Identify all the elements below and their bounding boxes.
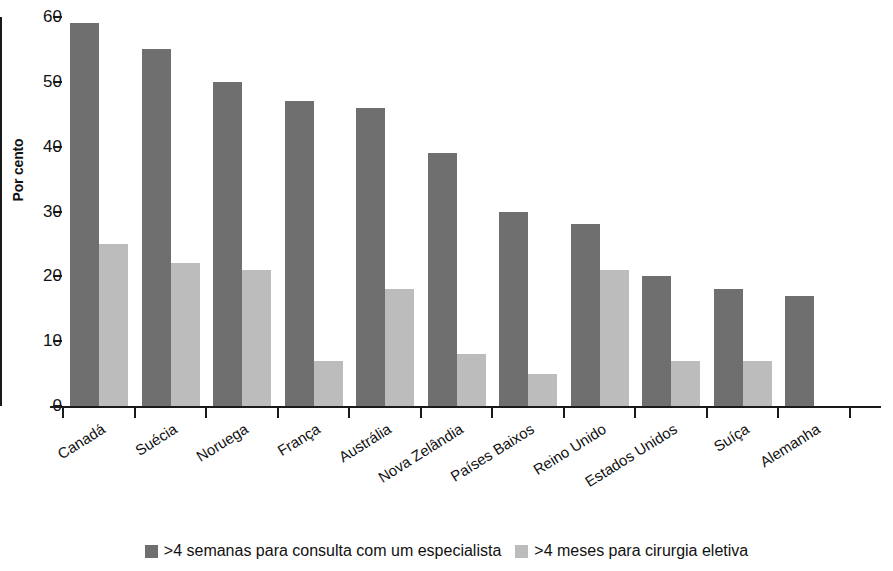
bars-layer [62, 0, 893, 406]
y-axis-tick-mark [53, 211, 62, 213]
legend-swatch-icon [145, 545, 158, 558]
bar [671, 361, 700, 406]
legend-label: >4 semanas para consulta com um especial… [164, 543, 502, 559]
legend-entry-2: >4 meses para cirurgia eletiva [515, 543, 748, 559]
bar [571, 224, 600, 406]
y-axis-line [0, 17, 2, 406]
chart-legend: >4 semanas para consulta com um especial… [0, 537, 893, 565]
bar [714, 289, 743, 406]
legend-entry-1: >4 semanas para consulta com um especial… [145, 543, 502, 559]
bar [314, 361, 343, 406]
bar [285, 101, 314, 406]
bar [142, 49, 171, 406]
bar [385, 289, 414, 406]
bar [356, 108, 385, 406]
y-axis-tick-mark [53, 340, 62, 342]
bar [70, 23, 99, 406]
bar [528, 374, 557, 406]
bar [428, 153, 457, 406]
x-axis-category-labels: CanadáSuéciaNoruegaFrançaAustráliaNova Z… [0, 406, 893, 526]
bar [99, 244, 128, 406]
bar [600, 270, 629, 406]
legend-label: >4 meses para cirurgia eletiva [534, 543, 748, 559]
bar [457, 354, 486, 406]
bar [242, 270, 271, 406]
bar [499, 212, 528, 407]
y-axis-tick-mark [53, 81, 62, 83]
bar [785, 296, 814, 406]
bar [743, 361, 772, 406]
y-axis-tick-mark [53, 275, 62, 277]
bar [642, 276, 671, 406]
legend-swatch-icon [515, 545, 528, 558]
y-axis-tick-mark [53, 146, 62, 148]
bar-chart-figure: Por cento 6050403020100 CanadáSuéciaNoru… [0, 0, 893, 571]
y-axis-tick-mark [53, 16, 62, 18]
bar [213, 82, 242, 406]
bar [171, 263, 200, 406]
